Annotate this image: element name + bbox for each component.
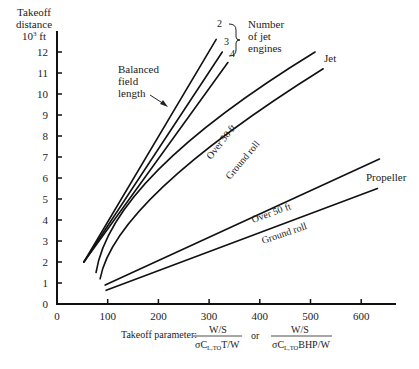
y-tick-label: 2 <box>43 256 49 268</box>
bfl-annotation: Balanced field length <box>118 63 168 107</box>
x-tick-label: 0 <box>54 310 60 322</box>
arrowhead-icon <box>160 100 168 107</box>
axes <box>56 31 396 305</box>
svg-text:engines: engines <box>248 42 282 54</box>
y-tick-labels: 0123456789101112 <box>37 46 49 310</box>
svg-text:of jet: of jet <box>248 30 271 42</box>
svg-text:2: 2 <box>217 18 222 29</box>
y-tick-label: 8 <box>43 130 49 142</box>
y-tick-label: 12 <box>37 46 48 58</box>
series-line-jet-ground-roll <box>100 69 323 279</box>
svg-text:Takeoff: Takeoff <box>17 6 51 18</box>
x-tick-label: 400 <box>252 310 269 322</box>
y-tick-label: 11 <box>37 67 48 79</box>
y-tick-label: 1 <box>43 277 49 289</box>
y-axis-title: Takeoff distance 103 ft <box>16 6 52 42</box>
series-line-propeller-over-50-ft <box>105 159 379 285</box>
svg-text:length: length <box>118 87 146 99</box>
propeller-label: Propeller <box>366 171 407 183</box>
jet-ground-roll-label: Ground roll <box>223 138 262 181</box>
svg-text:Number: Number <box>248 18 284 30</box>
svg-text:field: field <box>118 75 139 87</box>
x-axis-title: Takeoff parameter: W/S σCL,TOT/W or W/S … <box>121 324 332 351</box>
y-tick-label: 0 <box>43 298 49 310</box>
svg-text:103 ft: 103 ft <box>22 30 46 42</box>
svg-text:3: 3 <box>224 36 229 47</box>
svg-text:Balanced: Balanced <box>118 63 159 75</box>
series-line-balanced-field-length-4-jet-engines <box>84 63 228 263</box>
x-tick-label: 100 <box>99 310 116 322</box>
svg-text:σCL,TOBHP/W: σCL,TOBHP/W <box>272 339 330 351</box>
y-tick-label: 4 <box>43 214 49 226</box>
x-tick-labels: 0100200300400500600 <box>54 310 370 322</box>
svg-text:σCL,TOT/W: σCL,TOT/W <box>195 339 240 351</box>
svg-text:W/S: W/S <box>291 324 309 335</box>
x-tick-label: 600 <box>353 310 370 322</box>
x-tick-label: 500 <box>302 310 319 322</box>
x-tick-label: 200 <box>150 310 167 322</box>
svg-text:Takeoff parameter:: Takeoff parameter: <box>121 329 197 340</box>
y-tick-label: 9 <box>43 109 49 121</box>
jet-label: Jet <box>324 52 336 64</box>
svg-text:4: 4 <box>230 48 235 59</box>
svg-text:distance: distance <box>16 18 52 30</box>
svg-text:W/S: W/S <box>209 324 227 335</box>
jet-over-50ft-label: Over 50 ft <box>204 122 238 161</box>
takeoff-distance-chart: 0123456789101112 0100200300400500600 Tak… <box>0 0 419 369</box>
engine-count-labels: 2 3 4 Number of jet engines <box>217 18 284 59</box>
y-tick-label: 5 <box>43 193 49 205</box>
y-tick-label: 6 <box>43 172 49 184</box>
prop-over-50ft-label: Over 50 ft <box>250 200 293 224</box>
y-tick-label: 7 <box>43 151 49 163</box>
svg-text:or: or <box>251 330 260 341</box>
y-tick-label: 10 <box>37 88 49 100</box>
series-line-balanced-field-length-3-jet-engines <box>84 52 222 262</box>
x-tick-label: 300 <box>201 310 218 322</box>
y-tick-label: 3 <box>43 235 49 247</box>
